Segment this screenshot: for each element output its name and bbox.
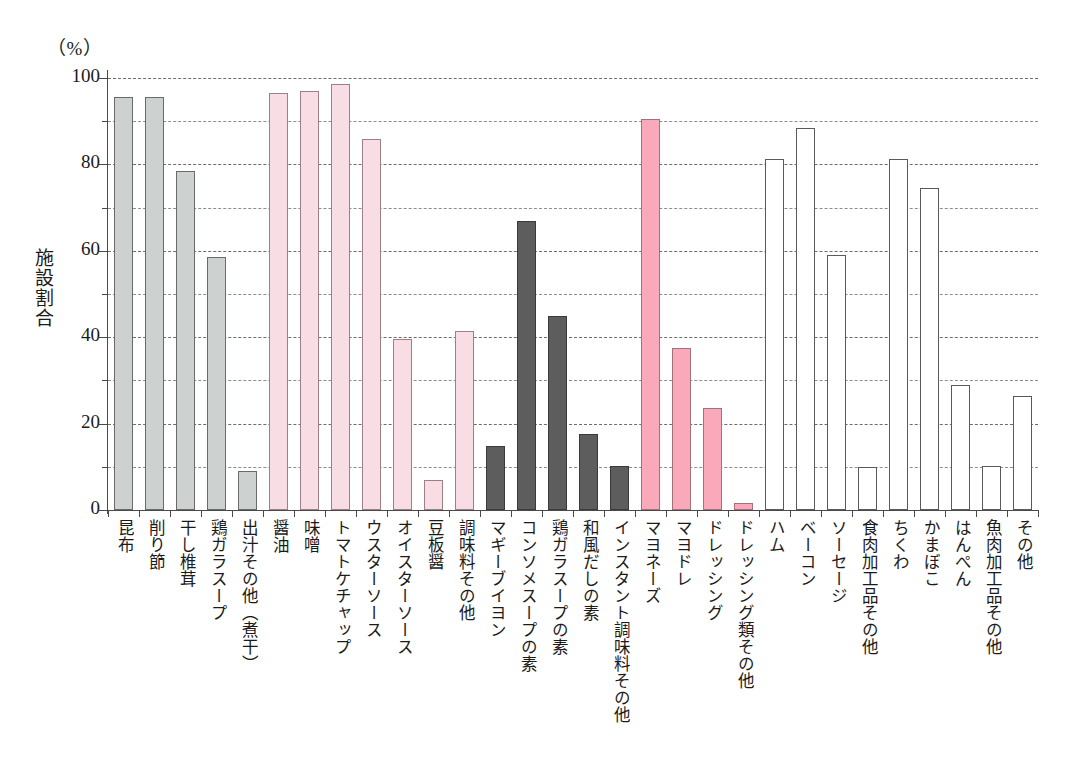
bar bbox=[238, 471, 257, 510]
x-tick bbox=[325, 510, 326, 517]
x-tick bbox=[697, 510, 698, 517]
bar bbox=[796, 128, 815, 510]
bar bbox=[176, 171, 195, 510]
x-tick bbox=[914, 510, 915, 517]
x-category-label: ベーコン bbox=[797, 519, 815, 587]
y-tick-major bbox=[99, 510, 108, 511]
x-tick bbox=[790, 510, 791, 517]
x-category-label: トマトケチャップ bbox=[332, 519, 350, 655]
x-tick bbox=[759, 510, 760, 517]
bar bbox=[920, 188, 939, 510]
x-category-label: 魚肉加工品その他 bbox=[983, 519, 1001, 655]
bar bbox=[889, 159, 908, 510]
y-tick-label: 80 bbox=[48, 151, 100, 173]
x-category-label: 出汁その他（煮干） bbox=[239, 519, 257, 672]
x-category-label: ドレッシング bbox=[704, 519, 722, 621]
x-category-label: 味噌 bbox=[301, 519, 319, 553]
bar bbox=[362, 139, 381, 510]
x-category-label: ちくわ bbox=[890, 519, 908, 570]
x-category-label: 調味料その他 bbox=[456, 519, 474, 621]
x-tick bbox=[201, 510, 202, 517]
bar-chart: （%） 施設割合 020406080100 昆布削り節干し椎茸鶏ガラスープ出汁そ… bbox=[0, 0, 1080, 780]
bar bbox=[1013, 396, 1032, 510]
x-category-label: マヨドレ bbox=[673, 519, 691, 587]
bar bbox=[641, 119, 660, 510]
x-category-label: かまぼこ bbox=[921, 519, 939, 587]
bar bbox=[765, 159, 784, 510]
x-tick bbox=[139, 510, 140, 517]
bar bbox=[393, 339, 412, 510]
x-tick bbox=[883, 510, 884, 517]
x-category-label: 鶏ガラスープの素 bbox=[549, 519, 567, 655]
y-tick-minor bbox=[102, 208, 108, 209]
x-category-label: オイスターソース bbox=[394, 519, 412, 655]
y-tick-minor bbox=[102, 294, 108, 295]
x-category-label: ハム bbox=[766, 519, 784, 553]
x-tick bbox=[418, 510, 419, 517]
y-tick-major bbox=[99, 251, 108, 252]
x-category-label: ドレッシング類その他 bbox=[735, 519, 753, 689]
x-tick bbox=[728, 510, 729, 517]
bar bbox=[548, 316, 567, 510]
y-tick-minor bbox=[102, 121, 108, 122]
x-tick bbox=[1038, 510, 1039, 517]
y-tick-major bbox=[99, 78, 108, 79]
x-tick bbox=[635, 510, 636, 517]
x-tick bbox=[604, 510, 605, 517]
bar bbox=[610, 466, 629, 510]
y-tick-major bbox=[99, 164, 108, 165]
x-category-label: 和風だしの素 bbox=[580, 519, 598, 621]
x-tick bbox=[232, 510, 233, 517]
x-category-label: インスタント調味料その他 bbox=[611, 519, 629, 723]
bar bbox=[455, 331, 474, 510]
bar bbox=[858, 467, 877, 510]
bar bbox=[734, 503, 753, 510]
x-tick bbox=[945, 510, 946, 517]
x-category-label: ソーセージ bbox=[828, 519, 846, 604]
gridline bbox=[108, 78, 1038, 79]
x-tick bbox=[573, 510, 574, 517]
x-tick bbox=[449, 510, 450, 517]
x-category-label: マヨネーズ bbox=[642, 519, 660, 604]
plot-area bbox=[108, 78, 1038, 510]
x-tick bbox=[294, 510, 295, 517]
x-category-label: 干し椎茸 bbox=[177, 519, 195, 587]
x-category-label: 醤油 bbox=[270, 519, 288, 553]
bar bbox=[207, 257, 226, 510]
y-tick-label: 60 bbox=[48, 238, 100, 260]
y-tick-major bbox=[99, 424, 108, 425]
x-tick bbox=[666, 510, 667, 517]
y-tick-label: 100 bbox=[48, 65, 100, 87]
bar bbox=[300, 91, 319, 510]
x-tick bbox=[976, 510, 977, 517]
y-axis-title: 施設割合 bbox=[29, 248, 55, 328]
bar bbox=[331, 84, 350, 510]
bar bbox=[114, 97, 133, 510]
y-tick-minor bbox=[102, 380, 108, 381]
bar bbox=[982, 466, 1001, 510]
x-category-label: マギーブイヨン bbox=[487, 519, 505, 638]
bar bbox=[703, 408, 722, 510]
x-category-label: その他 bbox=[1014, 519, 1032, 570]
bar bbox=[424, 480, 443, 510]
x-tick bbox=[263, 510, 264, 517]
bar bbox=[579, 434, 598, 510]
x-tick bbox=[1007, 510, 1008, 517]
y-tick-major bbox=[99, 337, 108, 338]
x-category-label: 昆布 bbox=[115, 519, 133, 553]
y-tick-minor bbox=[102, 467, 108, 468]
gridline bbox=[108, 121, 1038, 122]
x-category-label: はんぺん bbox=[952, 519, 970, 587]
x-category-label: 豆板醤 bbox=[425, 519, 443, 570]
bar bbox=[517, 221, 536, 510]
x-tick bbox=[852, 510, 853, 517]
y-tick-label: 0 bbox=[48, 497, 100, 519]
x-tick bbox=[821, 510, 822, 517]
y-tick-label: 20 bbox=[48, 411, 100, 433]
bar bbox=[486, 446, 505, 510]
x-category-label: 食肉加工品その他 bbox=[859, 519, 877, 655]
x-tick bbox=[170, 510, 171, 517]
bar bbox=[269, 93, 288, 510]
bar bbox=[827, 255, 846, 510]
bar bbox=[145, 97, 164, 510]
